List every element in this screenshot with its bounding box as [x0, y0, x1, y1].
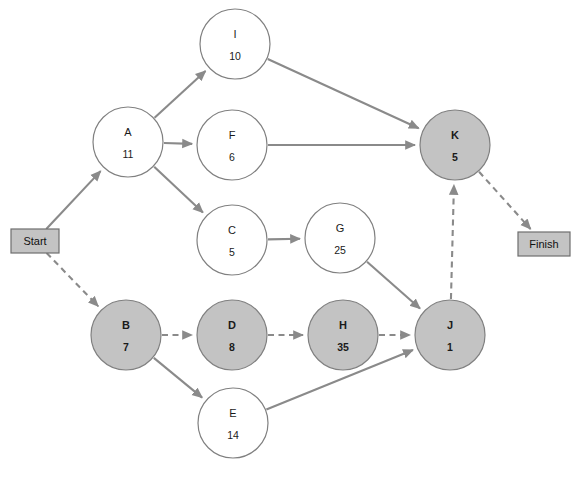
- terminals-layer: StartFinish: [11, 229, 570, 256]
- node-f-label: F: [229, 129, 236, 141]
- node-h-duration: 35: [337, 341, 349, 353]
- node-b[interactable]: B7: [91, 300, 161, 370]
- network-diagram-svg: I10A11F6K5C5G25B7D8H35J1E14 StartFinish: [0, 0, 576, 485]
- edge-g-to-j: [367, 262, 420, 309]
- edge-k-to-finish: [479, 172, 530, 229]
- node-g-duration: 25: [334, 244, 346, 256]
- node-i-label: I: [233, 28, 236, 40]
- node-e[interactable]: E14: [198, 388, 268, 458]
- node-d-duration: 8: [229, 341, 235, 353]
- node-k-shape: [420, 110, 490, 180]
- node-b-label: B: [122, 319, 130, 331]
- node-a-shape: [93, 107, 163, 177]
- node-d-label: D: [228, 319, 236, 331]
- node-i-duration: 10: [229, 50, 241, 62]
- node-d[interactable]: D8: [197, 300, 267, 370]
- edge-a-to-c: [154, 167, 203, 213]
- node-k-duration: 5: [452, 151, 458, 163]
- node-c-shape: [197, 205, 267, 275]
- node-j-shape: [415, 300, 485, 370]
- edge-j-to-k: [451, 185, 454, 299]
- node-h-label: H: [339, 319, 347, 331]
- node-e-label: E: [229, 407, 236, 419]
- node-a[interactable]: A11: [93, 107, 163, 177]
- node-f-duration: 6: [229, 151, 235, 163]
- edge-start-to-a: [46, 171, 100, 229]
- node-e-duration: 14: [227, 429, 239, 441]
- node-j[interactable]: J1: [415, 300, 485, 370]
- node-i[interactable]: I10: [200, 9, 270, 79]
- edge-c-to-g: [268, 239, 300, 240]
- node-c[interactable]: C5: [197, 205, 267, 275]
- edge-a-to-f: [164, 143, 192, 144]
- nodes-layer: I10A11F6K5C5G25B7D8H35J1E14: [91, 9, 490, 458]
- node-c-duration: 5: [229, 246, 235, 258]
- node-f[interactable]: F6: [197, 110, 267, 180]
- edge-i-to-k: [268, 59, 419, 128]
- terminal-start-label: Start: [23, 235, 46, 247]
- node-g[interactable]: G25: [305, 203, 375, 273]
- network-diagram-canvas: I10A11F6K5C5G25B7D8H35J1E14 StartFinish: [0, 0, 576, 485]
- terminal-finish-label: Finish: [529, 238, 558, 250]
- node-i-shape: [200, 9, 270, 79]
- node-j-label: J: [447, 319, 453, 331]
- node-g-label: G: [336, 222, 345, 234]
- node-c-label: C: [228, 224, 236, 236]
- node-f-shape: [197, 110, 267, 180]
- node-b-shape: [91, 300, 161, 370]
- terminal-finish[interactable]: Finish: [518, 232, 570, 256]
- edge-a-to-i: [155, 71, 206, 118]
- node-d-shape: [197, 300, 267, 370]
- node-b-duration: 7: [123, 341, 129, 353]
- node-k-label: K: [451, 129, 459, 141]
- node-j-duration: 1: [447, 341, 453, 353]
- node-e-shape: [198, 388, 268, 458]
- terminal-start[interactable]: Start: [11, 229, 59, 253]
- node-h[interactable]: H35: [308, 300, 378, 370]
- edge-b-to-e: [154, 358, 202, 398]
- node-a-label: A: [124, 126, 132, 138]
- node-h-shape: [308, 300, 378, 370]
- edge-start-to-b: [47, 253, 99, 306]
- node-a-duration: 11: [123, 148, 134, 160]
- node-g-shape: [305, 203, 375, 273]
- node-k[interactable]: K5: [420, 110, 490, 180]
